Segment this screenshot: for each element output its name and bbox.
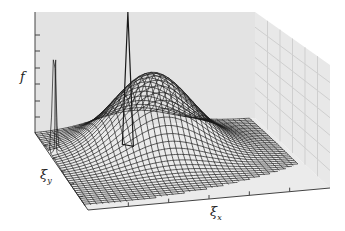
plot-walls	[35, 12, 330, 210]
surface-plot	[0, 0, 345, 231]
x-axis-label: ξx	[210, 205, 222, 222]
z-axis-label: f	[20, 70, 25, 83]
y-axis-label: ξy	[40, 168, 52, 185]
